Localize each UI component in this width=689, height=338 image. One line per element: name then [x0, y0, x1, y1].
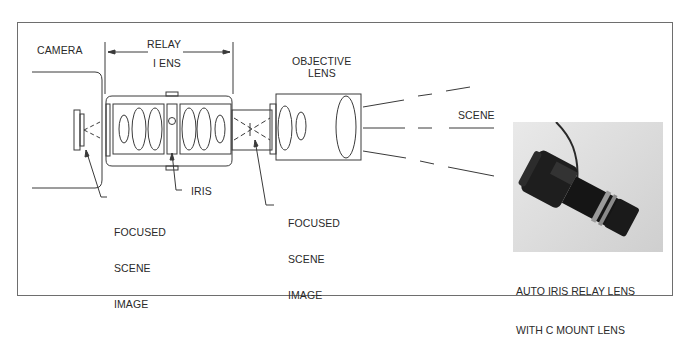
relay-label-line1: RELAY	[147, 38, 181, 50]
lens-photo-illustration	[513, 122, 663, 252]
camera-housing	[32, 72, 102, 188]
photo-caption: AUTO IRIS RELAY LENS WITH C MOUNT LENS	[516, 259, 635, 338]
focused-image-1-label: FOCUSED SCENE IMAGE	[114, 202, 166, 322]
objective-label-line1: OBJECTIVE	[292, 55, 351, 67]
camera-label: CAMERA	[37, 44, 83, 56]
relay-lens-body	[106, 96, 232, 166]
relay-label-line2: I ENS	[153, 57, 181, 69]
camera-sensor	[74, 110, 80, 150]
iris-aperture	[169, 118, 176, 125]
objective-lens-body	[276, 94, 361, 160]
objective-label-line2: LENS	[308, 67, 336, 79]
relay-lens-photo	[513, 122, 663, 252]
leader-focused-image-1	[86, 150, 101, 197]
scene-label: SCENE	[458, 109, 495, 121]
iris-label: IRIS	[191, 185, 212, 197]
focused-image-2-label: FOCUSED SCENE IMAGE	[288, 193, 340, 313]
